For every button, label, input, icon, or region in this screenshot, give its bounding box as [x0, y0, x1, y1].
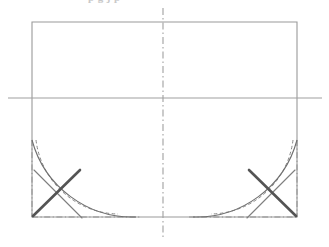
- technical-drawing-svg: [0, 0, 329, 247]
- left-dashed-arc: [36, 140, 118, 214]
- left-solid-arc: [32, 140, 136, 217]
- drawing-canvas: p g j p: [0, 0, 329, 247]
- right-solid-arc: [193, 140, 297, 217]
- left-bottom-corner-detail: [32, 140, 140, 218]
- right-dashed-arc: [211, 140, 293, 214]
- main-outline-rectangle: [32, 22, 297, 217]
- right-crossing-line-thin: [247, 170, 295, 218]
- main-outline-group: [32, 22, 297, 217]
- right-bottom-corner-detail: [189, 140, 297, 218]
- left-crossing-line-thin: [34, 170, 82, 218]
